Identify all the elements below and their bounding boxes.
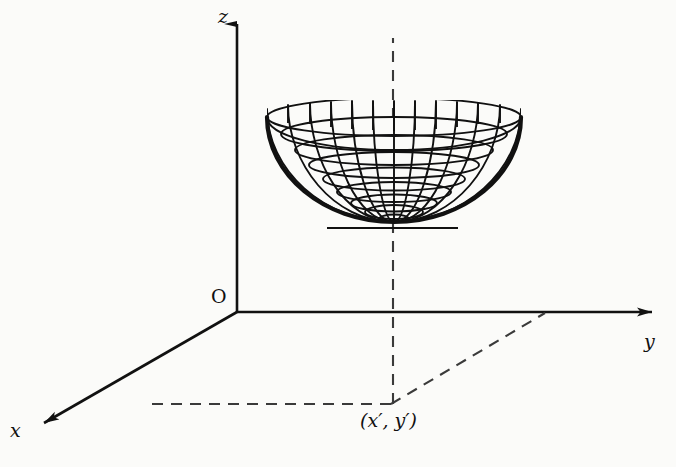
diagonal-dashed-guide bbox=[391, 313, 545, 404]
paraboloid-surface bbox=[267, 84, 521, 224]
y-axis-label: y bbox=[644, 330, 655, 352]
x-axis-line bbox=[44, 312, 237, 423]
paraboloid-diagram: z y x O (x′, y′) bbox=[0, 0, 676, 467]
x-axis-label: x bbox=[10, 419, 21, 441]
diagram-canvas bbox=[0, 0, 676, 467]
projection-point-label: (x′, y′) bbox=[360, 409, 417, 431]
origin-label: O bbox=[211, 285, 227, 307]
z-axis-label: z bbox=[218, 5, 228, 27]
axis-x bbox=[44, 312, 237, 423]
construction-guides bbox=[148, 38, 545, 404]
